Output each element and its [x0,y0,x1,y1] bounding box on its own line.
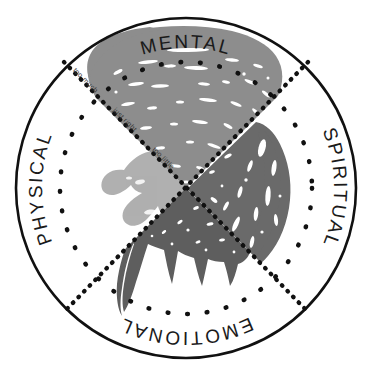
balance-wheel-svg: MENTAL EMOTIONAL PHYSICAL SPIRITUAL too … [0,0,373,375]
diagram-root: MENTAL EMOTIONAL PHYSICAL SPIRITUAL too … [0,0,373,375]
